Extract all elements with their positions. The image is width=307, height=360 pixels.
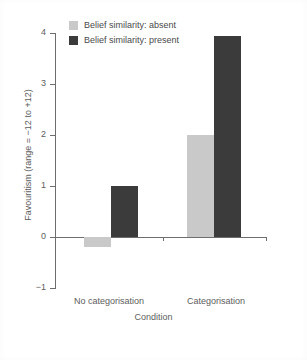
- figure-container: 43210−1 No categorisation Categorisation…: [0, 0, 307, 360]
- legend-swatch-absent: [69, 21, 78, 30]
- bar-no-categorisation-absent: [84, 237, 111, 247]
- bar-categorisation-present: [214, 36, 241, 237]
- bar-categorisation-absent: [187, 135, 214, 237]
- bar-no-categorisation-present: [111, 186, 138, 237]
- y-tick-label-4: 4: [6, 28, 46, 37]
- x-axis-label: Condition: [0, 312, 307, 322]
- y-tick-label-neg1: −1: [6, 283, 46, 292]
- x-tick-left-end: [55, 237, 56, 241]
- x-tick-right-end: [266, 237, 267, 241]
- x-tick-group-divider: [163, 237, 164, 241]
- y-axis-label: Favouritism (range = −12 to +12): [23, 65, 33, 245]
- plot-area: 43210−1 No categorisation Categorisation…: [0, 0, 307, 360]
- y-tick-1: [50, 186, 55, 187]
- legend-item-present: Belief similarity: present: [69, 34, 179, 47]
- y-tick-2: [50, 135, 55, 136]
- legend-label-absent: Belief similarity: absent: [84, 21, 176, 30]
- legend: Belief similarity: absent Belief similar…: [69, 19, 179, 49]
- legend-swatch-present: [69, 36, 78, 45]
- legend-label-present: Belief similarity: present: [84, 36, 179, 45]
- y-tick-neg1: [50, 288, 55, 289]
- y-axis-line: [55, 33, 56, 289]
- x-tick-label-categorisation: Categorisation: [146, 296, 286, 306]
- y-tick-3: [50, 84, 55, 85]
- y-tick-4: [50, 33, 55, 34]
- legend-item-absent: Belief similarity: absent: [69, 19, 179, 32]
